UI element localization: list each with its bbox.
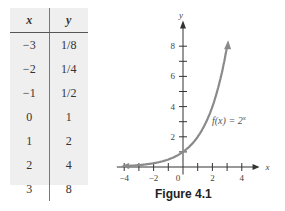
y-tick-label: 6 [171, 71, 176, 81]
x-tick-label: 2 [210, 173, 215, 183]
x-tick-label: 0 [176, 173, 181, 183]
y-axis-label: y [178, 10, 183, 20]
y-tick-label: 2 [171, 132, 176, 142]
x-axis-label: x [265, 162, 270, 172]
y-axis-arrow-icon [180, 21, 186, 29]
x-axis-arrow-icon [253, 164, 260, 170]
exponential-chart: −4−20242468xyf(x) = 2x [0, 0, 285, 211]
function-label: f(x) = 2x [212, 114, 247, 127]
figure-caption: Figure 4.1 [155, 187, 212, 201]
curve-start-arrow-icon [121, 163, 129, 169]
y-tick-label: 8 [171, 41, 176, 51]
x-tick-label: −4 [119, 173, 129, 183]
curve-end-arrow-icon [224, 40, 231, 49]
x-tick-label: −2 [149, 173, 159, 183]
function-curve [127, 46, 227, 166]
x-tick-label: 4 [240, 173, 245, 183]
y-tick-label: 4 [171, 102, 176, 112]
